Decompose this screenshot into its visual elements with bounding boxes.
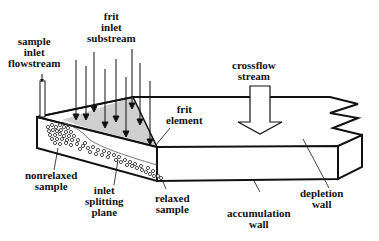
label-line: substream — [87, 33, 136, 44]
label-inlet-splitting-plane: inlet splitting plane — [85, 185, 124, 218]
label-line: flowstream — [8, 58, 60, 69]
label-line: element — [166, 115, 203, 126]
leader-accumulation — [253, 179, 260, 192]
channel-outlet-end — [338, 135, 362, 179]
label-line: wall — [227, 219, 291, 230]
label-frit-inlet-substream: frit inlet substream — [87, 11, 136, 44]
label-frit-element: frit element — [166, 104, 203, 126]
leader-frit-element — [156, 128, 170, 145]
leader-relaxed — [163, 182, 166, 189]
label-nonrelaxed-sample: nonrelaxed sample — [25, 170, 77, 192]
label-crossflow-stream: crossflow stream — [232, 60, 276, 82]
accumulation-wall-face — [157, 146, 338, 181]
label-line: stream — [232, 71, 276, 82]
label-depletion-wall: depletion wall — [300, 188, 343, 210]
label-line: sample — [25, 181, 77, 192]
label-line: wall — [300, 199, 343, 210]
label-accumulation-wall: accumulation wall — [227, 208, 291, 230]
label-line: plane — [85, 207, 124, 218]
label-sample-inlet-flowstream: sample inlet flowstream — [8, 36, 60, 69]
label-line: sample — [155, 204, 190, 215]
crossflow-arrow-icon — [238, 86, 282, 134]
label-relaxed-sample: relaxed sample — [155, 193, 190, 215]
sample-inlet-tube — [40, 81, 45, 117]
channel-break-zigzag — [330, 104, 362, 135]
